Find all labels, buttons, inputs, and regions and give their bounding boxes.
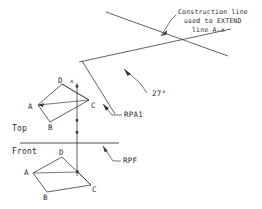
front-view-vertex-label-c: C [92, 186, 97, 194]
rpf-leader-arrowhead [103, 146, 108, 152]
angle-label-27-degrees: 27° [152, 90, 166, 98]
label-rpa1: RPA1 [124, 111, 143, 119]
view-label-front: Front [12, 148, 37, 156]
top-view-vertex-label-a: A [28, 103, 33, 111]
top-view-polygon [38, 84, 89, 122]
top-view-line-d-c [62, 84, 89, 100]
angle-leader-arrowhead [124, 69, 131, 76]
construction-note-leader [161, 15, 176, 36]
technical-drawing-canvas: Construction line used to EXTEND line A-… [0, 0, 262, 209]
view-label-top: Top [12, 125, 27, 133]
rpf-leader-line [103, 146, 121, 161]
front-view-vertex-label-a: A [24, 169, 29, 177]
projector-tick-lower [76, 131, 79, 134]
front-view-line-a-x [33, 172, 78, 173]
projector-tick-upper [76, 85, 79, 88]
construction-note-line-2: used to EXTEND [184, 17, 242, 25]
top-view-vertex-label-d: D [58, 77, 63, 85]
construction-note-line-1: Construction line [178, 8, 248, 16]
auxiliary-reference-plane-line [82, 61, 115, 114]
top-view-vertex-label-c: C [91, 102, 96, 110]
top-view-point-x-label: x [70, 78, 74, 84]
front-view-polygon [33, 157, 91, 192]
front-view-point-x-marker [76, 171, 79, 174]
top-view-vertex-label-b: B [48, 124, 53, 132]
front-view-line-x-c [78, 172, 91, 185]
label-rpf: RPF [123, 157, 137, 165]
front-view-vertex-label-b: B [43, 194, 48, 202]
front-view-vertex-label-d: D [59, 149, 64, 157]
projector-tick-mid [76, 119, 79, 122]
construction-note-line-3: line A-x [192, 26, 225, 34]
